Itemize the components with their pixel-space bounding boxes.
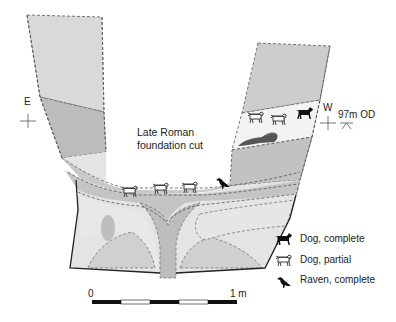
oval-feature [101, 215, 115, 241]
datum-label: 97m OD [338, 110, 375, 120]
legend-dog-partial-label: Dog, partial [300, 255, 351, 265]
east-crosshair-icon [20, 114, 36, 128]
west-label: W [323, 103, 332, 113]
west-crosshair-icon [320, 116, 336, 130]
section-drawing: E W 97m OD Late Roman foundation cut 0 1… [0, 0, 396, 322]
scale-bar [92, 300, 237, 304]
legend-raven-label: Raven, complete [300, 275, 375, 285]
legend-dog-complete-label: Dog, complete [300, 234, 364, 244]
datum-marker-icon [340, 123, 353, 129]
scale-end-label: 1 m [230, 289, 247, 299]
east-label: E [24, 97, 31, 107]
left-arm-upper-layer [27, 15, 104, 112]
legend-dog-partial-icon [276, 255, 291, 266]
legend-raven-icon [277, 277, 291, 288]
feature-title: Late Roman foundation cut [137, 126, 227, 152]
scale-start-label: 0 [88, 289, 94, 299]
